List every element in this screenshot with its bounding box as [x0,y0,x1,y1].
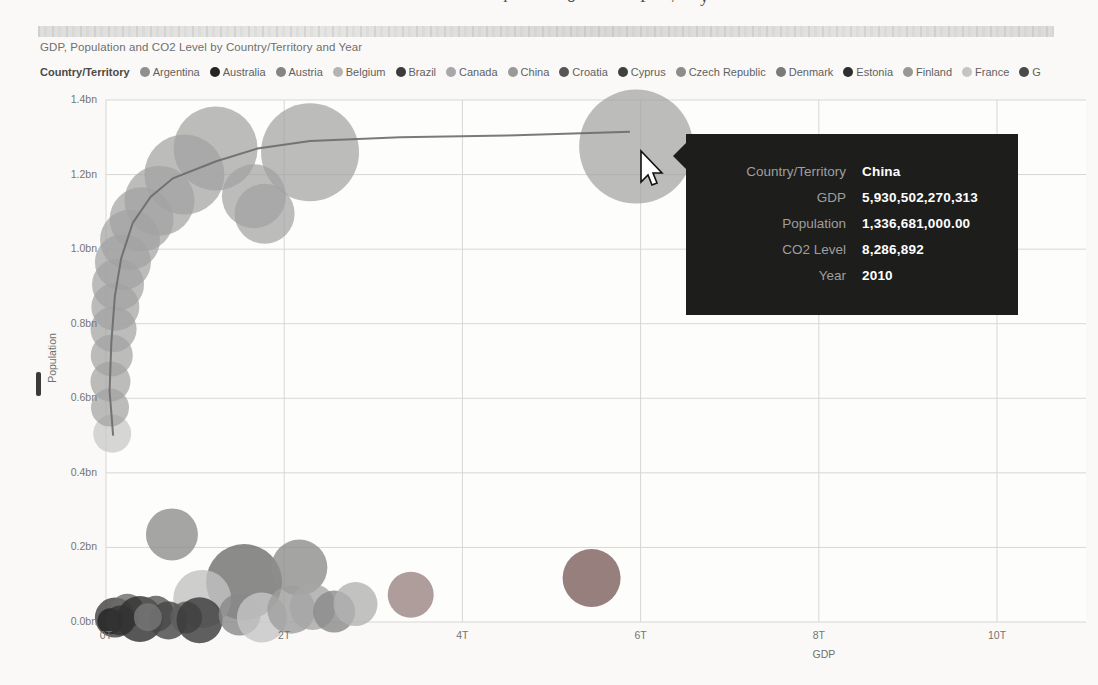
bubble[interactable] [177,597,223,643]
x-axis-tick-label: 4T [440,629,484,641]
x-axis-tick-label: 8T [797,629,841,641]
y-axis-tick-label: 0.6bn [45,391,97,403]
tooltip: Country/TerritoryChina GDP5,930,502,270,… [686,134,1018,315]
bubble-china[interactable] [261,103,359,201]
tooltip-label: CO2 Level [704,237,846,263]
bubble[interactable] [333,582,377,626]
y-axis-title: Population [46,333,58,383]
x-axis-title: GDP [802,648,846,660]
tooltip-pointer [673,142,687,170]
bubble[interactable] [134,603,162,631]
y-axis-tick-label: 0.2bn [45,540,97,552]
tooltip-value: 5,930,502,270,313 [862,185,996,211]
x-axis-tick-label: 0T [84,629,128,641]
x-axis-tick-label: 10T [975,629,1019,641]
tooltip-label: Population [704,211,846,237]
bubble[interactable] [388,572,434,618]
tooltip-value: 8,286,892 [862,237,996,263]
tooltip-label: GDP [704,185,846,211]
y-axis-tick-label: 1.0bn [45,242,97,254]
x-axis-tick-label: 2T [262,629,306,641]
tooltip-label: Year [704,263,846,289]
y-axis-tick-label: 0.4bn [45,466,97,478]
tooltip-value: 2010 [862,263,996,289]
y-axis-tick-label: 1.2bn [45,168,97,180]
tooltip-value: China [862,159,996,185]
y-axis-tick-label: 0.8bn [45,317,97,329]
mouse-cursor-icon [636,148,666,188]
bubble-chart-plot-area[interactable] [0,0,1098,685]
page: loP/y GDP, Population and CO2 Level by C… [0,0,1098,685]
x-axis-tick-label: 6T [619,629,663,641]
bubble[interactable] [146,508,198,560]
bubble[interactable] [563,549,621,607]
tooltip-value: 1,336,681,000.00 [862,211,996,237]
y-axis-tick-label: 1.4bn [45,93,97,105]
y-axis-tick-label: 0.0bn [45,615,97,627]
tooltip-label: Country/Territory [704,159,846,185]
